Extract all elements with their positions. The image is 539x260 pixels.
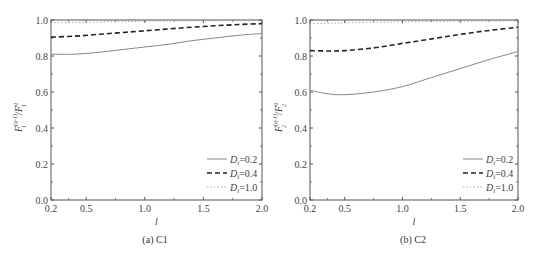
y-tick-label: 0.6 xyxy=(36,87,49,98)
series-line-di-1-0 xyxy=(310,21,518,24)
legend-label: Di=1.0 xyxy=(485,182,513,195)
y-tick-label: 0.4 xyxy=(36,123,49,134)
y-tick-label: 0.6 xyxy=(295,87,308,98)
series-line-di-0-4 xyxy=(310,27,518,51)
legend: Di=0.2Di=0.4Di=1.0 xyxy=(207,154,257,195)
chart-caption: (b) C2 xyxy=(400,234,426,246)
legend-label: Di=0.4 xyxy=(485,168,513,181)
x-tick-label: 1.0 xyxy=(396,203,409,214)
series-line-di-1-0 xyxy=(51,20,262,22)
x-axis-title: l xyxy=(155,216,158,227)
legend-label: Di=0.2 xyxy=(485,154,513,167)
series-line-di-0-2 xyxy=(310,52,518,95)
x-tick-label: 1.5 xyxy=(197,203,210,214)
x-tick-label: 2.0 xyxy=(512,203,525,214)
legend-label: Di=0.2 xyxy=(229,154,257,167)
x-tick-label: 1.5 xyxy=(454,203,467,214)
chart-caption: (a) C1 xyxy=(142,234,167,246)
x-tick-label: 1.0 xyxy=(139,203,152,214)
y-tick-label: 0.8 xyxy=(295,51,308,62)
x-tick-label: 0.5 xyxy=(338,203,351,214)
y-axis-title: F(q-1)1/Fq1 xyxy=(12,103,27,133)
chart-panel-b: 0.00.20.40.60.81.00.20.51.01.52.0Di=0.2D… xyxy=(272,15,524,247)
legend: Di=0.2Di=0.4Di=1.0 xyxy=(463,154,513,195)
x-tick-label: 2.0 xyxy=(256,203,269,214)
x-tick-label: 0.2 xyxy=(45,203,58,214)
x-axis-title: l xyxy=(413,216,416,227)
legend-label: Di=0.4 xyxy=(229,168,257,181)
y-tick-label: 1.0 xyxy=(36,15,49,26)
y-tick-label: 0.8 xyxy=(36,51,49,62)
chart-panel-a: 0.00.20.40.60.81.00.20.51.01.52.0Di=0.2D… xyxy=(12,15,268,247)
y-tick-label: 0.4 xyxy=(295,123,308,134)
y-tick-label: 0.2 xyxy=(295,159,308,170)
y-tick-label: 1.0 xyxy=(295,15,308,26)
x-tick-label: 0.5 xyxy=(80,203,93,214)
y-tick-label: 0.2 xyxy=(36,159,49,170)
legend-label: Di=1.0 xyxy=(229,182,257,195)
series-line-di-0-2 xyxy=(51,34,262,55)
figure: 0.00.20.40.60.81.00.20.51.01.52.0Di=0.2D… xyxy=(0,0,539,260)
y-axis-title: F(q-1)2/Fq2 xyxy=(272,103,287,133)
series-line-di-0-4 xyxy=(51,24,262,37)
x-tick-label: 0.2 xyxy=(304,203,317,214)
